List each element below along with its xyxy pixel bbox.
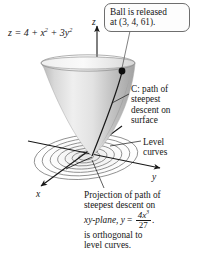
caption-xy-plane: xy-plane, y [84, 215, 125, 225]
ball-released-callout: Ball is released at (3, 4, 61). [104, 3, 190, 32]
paraboloid-inner-wall [41, 57, 135, 69]
projection-fraction: 4x3 27 [136, 211, 151, 230]
steepest-descent-label: C: path of steepest descent on surface [131, 84, 195, 126]
level-label-line-1: Level [143, 137, 195, 147]
caption-equals: = [127, 215, 132, 225]
fraction-numerator: 4x3 [136, 211, 151, 220]
caption-line-1: Projection of path of [84, 190, 196, 200]
surface-equation: z = 4 + x2 + 3y2 [8, 27, 72, 38]
z-axis-label: z [92, 17, 96, 28]
equation-lhs: z [8, 27, 12, 38]
equation-x-term: x2 [40, 27, 48, 38]
fraction-denominator: 27 [136, 220, 151, 230]
ball-point [119, 68, 126, 75]
equation-constant: 4 [24, 27, 29, 38]
projection-caption: Projection of path of steepest descent o… [84, 190, 196, 251]
callout-line-2: at (3, 4, 61). [110, 17, 185, 27]
path-label-line-2: steepest [131, 94, 195, 104]
y-axis-label: y [152, 172, 156, 183]
caption-line-4: is orthogonal to [84, 230, 196, 240]
x-axis-label: x [36, 189, 40, 200]
equation-y-term: 3y2 [60, 27, 73, 38]
path-label-line-1: C: path of [131, 84, 195, 94]
path-label-line-4: surface [131, 115, 195, 125]
path-label-line-3: descent on [131, 105, 195, 115]
caption-line-3: xy-plane, y = 4x3 27 . [84, 211, 196, 230]
caption-line-5: level curves. [84, 240, 196, 250]
equation-equals: = [14, 27, 21, 38]
level-label-line-2: curves [143, 147, 195, 157]
caption-period: . [152, 215, 154, 225]
callout-line-1: Ball is released [110, 7, 185, 17]
level-curves-label: Level curves [143, 137, 195, 158]
